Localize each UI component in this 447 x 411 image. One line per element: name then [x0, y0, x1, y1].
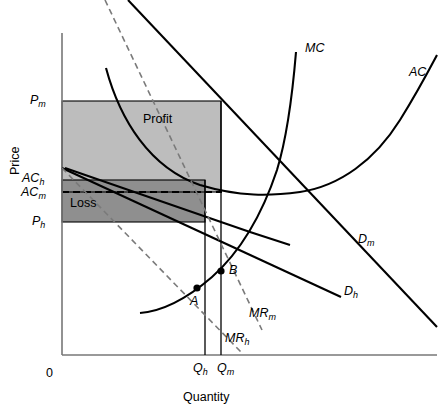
- y-tick-p-h-sub: h: [40, 220, 45, 230]
- origin-label: 0: [46, 367, 53, 380]
- y-tick-p-m: Pm: [30, 94, 46, 107]
- point-b-label: B: [229, 264, 237, 277]
- y-tick-ac-h: ACh: [22, 172, 44, 185]
- point-b-marker: [217, 267, 224, 274]
- d-h-curve-label: Dh: [344, 285, 358, 298]
- mc-curve-label: MC: [305, 42, 324, 55]
- x-tick-q-m: Qm: [217, 362, 234, 375]
- x-tick-q-m-text: Q: [217, 361, 227, 375]
- x-tick-q-h-sub: h: [203, 367, 208, 377]
- y-tick-p-m-sub: m: [38, 99, 46, 109]
- loss-region-label: Loss: [70, 197, 96, 210]
- ac-curve-label: AC: [409, 66, 426, 79]
- x-tick-q-h-text: Q: [193, 361, 203, 375]
- mr-m-curve-label: MRm: [249, 307, 276, 320]
- y-tick-ac-m-text: AC: [21, 185, 38, 199]
- economics-diagram: Price Quantity 0 Pm ACh ACm Ph Qh Qm MC …: [0, 0, 447, 411]
- y-tick-ac-h-text: AC: [22, 171, 39, 185]
- point-a-label: A: [190, 295, 198, 308]
- y-axis-title: Price: [8, 147, 22, 175]
- d-m-curve-label-text: D: [358, 232, 367, 246]
- d-h-curve-label-text: D: [344, 284, 353, 298]
- y-tick-ac-m-sub: m: [38, 191, 46, 201]
- d-h-curve-label-sub: h: [353, 290, 358, 300]
- mr-h-curve-label-text: MR: [225, 331, 244, 345]
- mr-h-curve-label: MRh: [225, 332, 249, 345]
- y-tick-ac-m: ACm: [21, 186, 46, 199]
- point-a-marker: [193, 284, 200, 291]
- d-m-curve-label: Dm: [358, 233, 375, 246]
- mr-m-curve-label-text: MR: [249, 306, 268, 320]
- plot-canvas: [0, 0, 447, 411]
- x-tick-q-m-sub: m: [227, 367, 235, 377]
- y-tick-p-h: Ph: [32, 215, 45, 228]
- mr-m-curve-label-sub: m: [268, 312, 276, 322]
- mr-h-curve-label-sub: h: [244, 337, 249, 347]
- profit-region-label: Profit: [143, 113, 172, 126]
- x-axis-title: Quantity: [183, 390, 230, 404]
- d-m-curve-label-sub: m: [367, 238, 375, 248]
- x-tick-q-h: Qh: [193, 362, 208, 375]
